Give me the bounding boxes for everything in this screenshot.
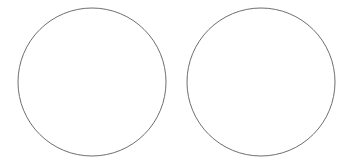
- diagram-svg: [0, 0, 350, 164]
- left-circle: [18, 8, 166, 156]
- diagram-canvas: [0, 0, 350, 164]
- right-circle: [187, 8, 335, 156]
